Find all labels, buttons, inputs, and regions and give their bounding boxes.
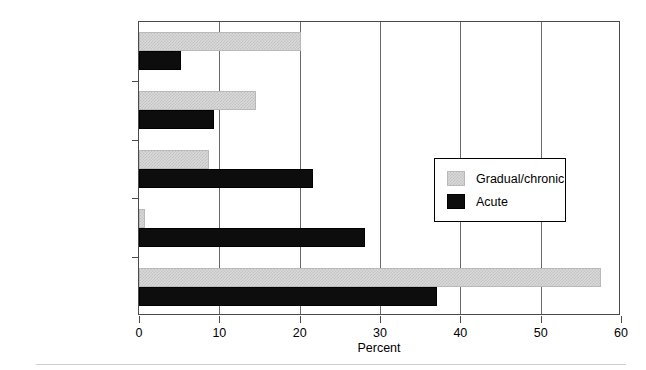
x-axis-title: Percent	[138, 341, 620, 355]
legend-item-acute: Acute	[447, 190, 565, 213]
bar-preexisting-condition-gradual-chronic	[139, 32, 301, 51]
y-tick-1	[132, 81, 139, 82]
x-tick-30	[380, 316, 381, 323]
x-tick-label-50: 50	[521, 326, 561, 340]
x-tick-40	[460, 316, 461, 323]
bar-overuse-intensity-acute	[139, 110, 214, 129]
x-tick-20	[300, 316, 301, 323]
x-tick-0	[139, 316, 140, 323]
x-tick-label-20: 20	[280, 326, 320, 340]
x-tick-label-10: 10	[199, 326, 239, 340]
y-tick-2	[132, 140, 139, 141]
bar-direct-blow-acute	[139, 228, 365, 247]
legend-swatch-gradual-chronic	[447, 171, 465, 186]
legend-label-gradual-chronic: Gradual/chronic	[476, 172, 564, 186]
x-tick-50	[541, 316, 542, 323]
bar-customary-activity-gradual-chronic	[139, 268, 601, 287]
x-tick-label-60: 60	[601, 326, 641, 340]
bar-chart: 0102030405060 Preexisting conditionOveru…	[0, 0, 646, 370]
x-tick-label-30: 30	[360, 326, 400, 340]
legend-swatch-acute	[447, 194, 465, 209]
x-tick-60	[621, 316, 622, 323]
legend-label-acute: Acute	[476, 195, 508, 209]
bar-twist-stretch-gradual-chronic	[139, 150, 209, 169]
bar-overuse-intensity-gradual-chronic	[139, 91, 256, 110]
bar-preexisting-condition-acute	[139, 51, 181, 70]
x-tick-10	[219, 316, 220, 323]
bar-twist-stretch-acute	[139, 169, 313, 188]
chart-legend: Gradual/chronic Acute	[434, 158, 566, 222]
y-tick-3	[132, 198, 139, 199]
bar-direct-blow-gradual-chronic	[139, 209, 145, 228]
y-tick-4	[132, 257, 139, 258]
bar-customary-activity-acute	[139, 287, 437, 306]
legend-item-gradual-chronic: Gradual/chronic	[447, 167, 565, 190]
footer-divider	[36, 364, 626, 365]
x-tick-label-0: 0	[119, 326, 159, 340]
x-tick-label-40: 40	[440, 326, 480, 340]
